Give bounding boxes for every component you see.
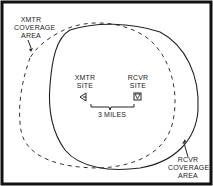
rcvr-coverage-boundary (50, 24, 199, 169)
rcvr-coverage-leader (184, 143, 188, 157)
label-line: XMTR (14, 16, 48, 24)
label-line: COVERAGE (14, 24, 48, 32)
distance-brace (91, 104, 134, 110)
rcvr-site-icon (134, 93, 141, 100)
xmtr-coverage-leader (28, 40, 31, 48)
xmtr-coverage-boundary (20, 23, 175, 168)
xmtr-site-label: XMTR SITE (72, 74, 98, 90)
label-line: AREA (14, 32, 48, 40)
rcvr-coverage-label: RCVR COVERAGE AREA (168, 156, 208, 180)
rcvr-site-label: RCVR SITE (124, 74, 152, 90)
label-line: XMTR (72, 74, 98, 82)
label-line: AREA (168, 172, 208, 180)
distance-label: 3 MILES (90, 111, 134, 119)
label-line: SITE (72, 82, 98, 90)
label-line: SITE (124, 82, 152, 90)
coverage-diagram: XMTR COVERAGE AREA XMTR SITE RCVR SITE 3… (0, 0, 213, 186)
label-line: RCVR (124, 74, 152, 82)
label-line: COVERAGE (168, 164, 208, 172)
xmtr-leader-arrowhead-icon (29, 48, 33, 52)
xmtr-site-icon (80, 93, 86, 101)
label-line: RCVR (168, 156, 208, 164)
xmtr-coverage-label: XMTR COVERAGE AREA (14, 16, 48, 40)
